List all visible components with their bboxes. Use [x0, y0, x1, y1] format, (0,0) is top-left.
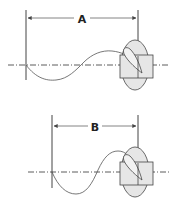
propeller-icon: [120, 40, 153, 90]
dimension-label-a: A: [78, 13, 87, 26]
helix-path-curve: [26, 51, 134, 80]
propeller-pitch-diagram: A B: [0, 0, 179, 206]
dimension-label-b: B: [91, 121, 99, 134]
diagram-bottom: B: [28, 115, 170, 197]
propeller-icon: [120, 147, 153, 197]
diagram-top: A: [8, 10, 170, 90]
